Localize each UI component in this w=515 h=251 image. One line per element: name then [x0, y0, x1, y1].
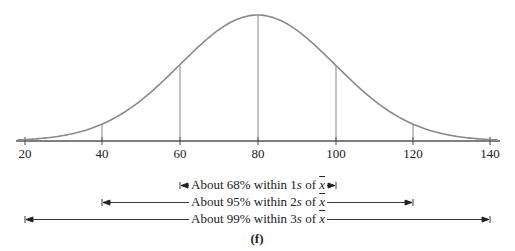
tick-label-40: 40 [96, 146, 109, 162]
sigma-markers [102, 15, 413, 141]
tick-label-80: 80 [252, 146, 265, 162]
tick-label-100: 100 [326, 146, 346, 162]
range-label-68: About 68% within 1s of x [189, 178, 327, 192]
tick-label-140: 140 [480, 146, 500, 162]
range-label-95: About 95% within 2s of x [189, 195, 327, 209]
panel-label: (f) [251, 231, 264, 247]
range-label-99: About 99% within 3s of x [189, 212, 327, 226]
tick-label-60: 60 [174, 146, 187, 162]
tick-label-20: 20 [19, 146, 32, 162]
tick-label-120: 120 [403, 146, 423, 162]
bell-curve [17, 15, 498, 140]
